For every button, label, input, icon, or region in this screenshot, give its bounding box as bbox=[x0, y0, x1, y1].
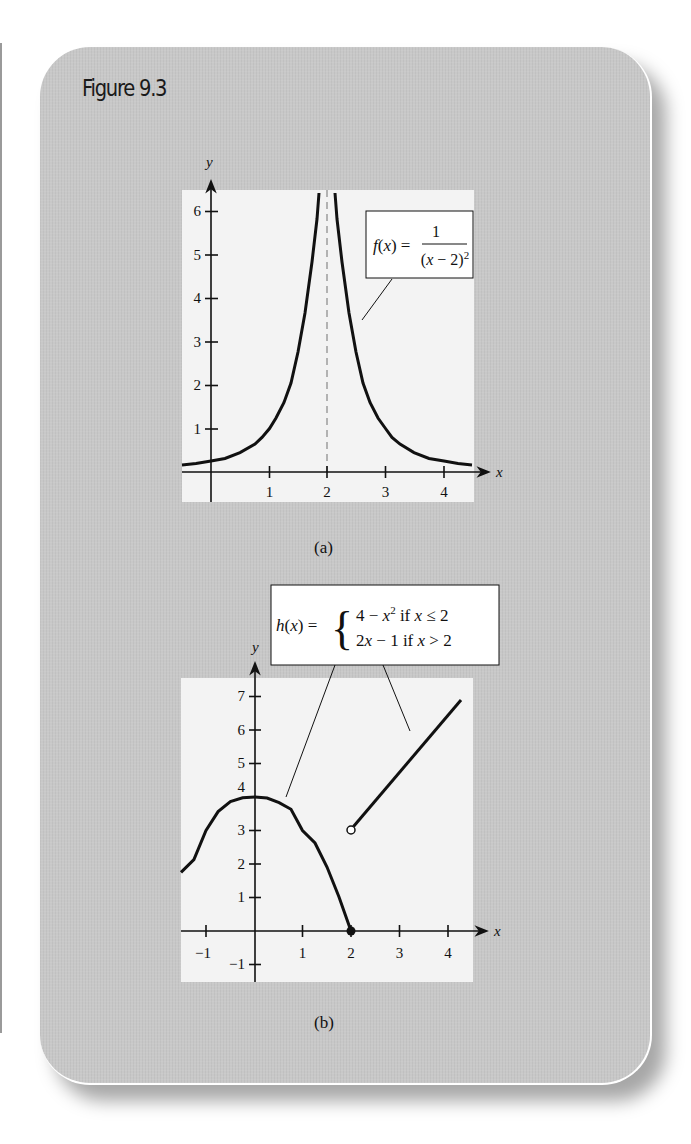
svg-text:1: 1 bbox=[266, 484, 274, 500]
function-label-b-lhs: h(x) = bbox=[276, 616, 317, 635]
chart-b: −11234 −112 345 67 y x h(x) = { 4 − x2 bbox=[181, 585, 501, 982]
svg-text:3: 3 bbox=[382, 484, 390, 500]
svg-text:2: 2 bbox=[323, 484, 331, 500]
function-label-b-case1: 4 − x2 if x ≤ 2 bbox=[356, 604, 448, 625]
chart-a: 1234 123 456 y x f(x) = 1 (x − 2)2 bbox=[182, 154, 503, 502]
svg-text:4: 4 bbox=[194, 290, 202, 306]
svg-text:1: 1 bbox=[238, 889, 246, 905]
svg-text:1: 1 bbox=[194, 421, 202, 437]
svg-text:4: 4 bbox=[444, 945, 452, 961]
svg-text:5: 5 bbox=[194, 247, 202, 263]
x-axis-label-a: x bbox=[495, 464, 503, 480]
caption-a: (a) bbox=[314, 538, 333, 558]
svg-text:4: 4 bbox=[440, 484, 448, 500]
svg-text:2: 2 bbox=[194, 377, 202, 393]
svg-text:7: 7 bbox=[238, 688, 246, 704]
svg-text:5: 5 bbox=[238, 755, 246, 771]
figure-charts: 1234 123 456 y x f(x) = 1 (x − 2)2 bbox=[0, 0, 691, 1144]
y-axis-label-a: y bbox=[204, 154, 213, 170]
svg-text:6: 6 bbox=[238, 722, 246, 738]
svg-text:6: 6 bbox=[194, 203, 202, 219]
y-axis-label-b: y bbox=[250, 639, 259, 655]
plot-area-b bbox=[181, 678, 473, 982]
function-label-a-lhs: f(x) = bbox=[373, 236, 410, 255]
function-label-a-denominator: (x − 2)2 bbox=[421, 249, 469, 269]
svg-text:3: 3 bbox=[194, 334, 202, 350]
open-endpoint bbox=[347, 826, 355, 834]
svg-text:2: 2 bbox=[238, 856, 246, 872]
closed-endpoint bbox=[347, 927, 356, 936]
function-label-a-numerator: 1 bbox=[432, 223, 440, 240]
caption-b: (b) bbox=[314, 1013, 334, 1033]
brace-icon: { bbox=[331, 603, 353, 654]
svg-text:−1: −1 bbox=[229, 956, 245, 972]
svg-text:3: 3 bbox=[396, 945, 404, 961]
svg-text:3: 3 bbox=[238, 822, 246, 838]
svg-text:4: 4 bbox=[238, 779, 246, 795]
x-axis-label-b: x bbox=[493, 923, 501, 939]
function-label-b-case2: 2x − 1 if x > 2 bbox=[356, 631, 452, 650]
svg-text:2: 2 bbox=[347, 945, 355, 961]
svg-text:1: 1 bbox=[299, 945, 307, 961]
svg-text:−1: −1 bbox=[195, 945, 211, 961]
